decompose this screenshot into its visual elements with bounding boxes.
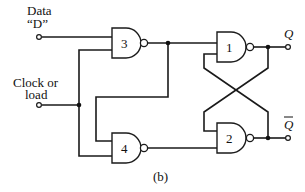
gate-2-label: 2 [226,131,233,146]
wire-g3-to-g4 [96,43,168,141]
qbar-output-label: Q [284,117,294,132]
nand-gate-4: 4 [112,133,148,163]
nand-gate-2: 2 [217,123,254,153]
figure-caption: (b) [153,169,168,184]
gate-3-label: 3 [121,36,128,51]
gate-1-label: 1 [226,40,233,55]
nand-gate-1: 1 [217,32,254,62]
nand-gate-3-bubble [140,39,147,46]
data-input-label-d: “D” [27,16,48,31]
data-input-terminal [37,35,42,40]
q-output-terminal [286,45,291,50]
clock-input-terminal [37,103,42,108]
qbar-output-terminal [286,136,291,141]
junction-clock [77,103,82,108]
nand-gate-1-bubble [246,43,253,50]
junction-g3-out [166,41,171,46]
nand-gate-4-bubble [140,144,147,151]
d-latch-diagram: Data “D” Clock or load 3 [0,0,305,192]
junction-q [266,45,271,50]
nand-gate-3: 3 [112,28,148,58]
junction-qbar [266,136,271,141]
q-output-label: Q [284,26,294,41]
nand-gate-2-bubble [246,134,253,141]
gate-4-label: 4 [121,141,128,156]
clock-input-label-load: load [25,87,48,102]
